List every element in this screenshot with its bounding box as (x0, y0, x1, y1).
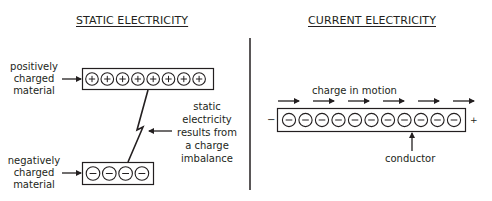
conductor-charges (282, 113, 460, 126)
diagram-graphics (0, 0, 492, 201)
positive-material-box (83, 69, 214, 90)
conductor-box (278, 109, 466, 132)
lightning-bolt-icon (128, 90, 148, 162)
negative-material-box (83, 163, 154, 185)
